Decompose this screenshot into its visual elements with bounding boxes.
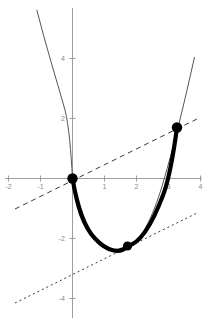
y-tick-label-2: 2 <box>61 115 65 122</box>
y-tick-label-neg2: -2 <box>59 235 65 242</box>
x-tick-label-neg2: -2 <box>5 183 11 190</box>
parallel-tangent-line <box>15 213 197 303</box>
marked-point-left-endpoint <box>67 173 77 183</box>
parabola-thin-curve <box>37 10 195 251</box>
x-tick-label-neg1: -1 <box>37 183 43 190</box>
y-tick-label-neg4: -4 <box>59 295 65 302</box>
x-tick-label-1: 1 <box>103 183 107 190</box>
x-tick-label-4: 4 <box>199 183 203 190</box>
plot-canvas: -2 -1 1 2 3 4 4 2 -2 -4 <box>0 0 207 324</box>
marked-point-right-endpoint <box>172 122 182 132</box>
marked-point-tangency <box>123 241 132 250</box>
x-tick-label-2: 2 <box>135 183 139 190</box>
plot-svg: -2 -1 1 2 3 4 4 2 -2 -4 <box>0 0 207 324</box>
y-tick-label-4: 4 <box>61 55 65 62</box>
x-tick-labels: -2 -1 1 2 3 4 <box>5 183 202 190</box>
